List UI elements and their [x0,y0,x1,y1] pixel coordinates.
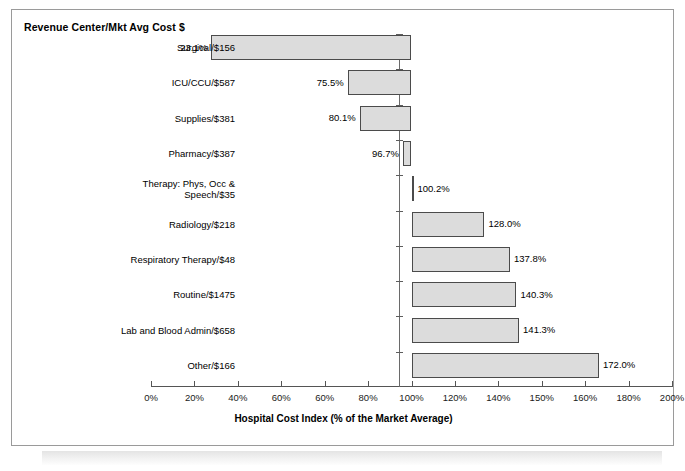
category-axis-tick [396,246,403,247]
category-label-line: Routine/$1475 [30,289,235,300]
category-label: Surgical/$156 [30,42,235,53]
bar [348,70,412,95]
category-label: Supplies/$381 [30,113,235,124]
bar-value-label: 128.0% [488,218,520,229]
chart-frame: Revenue Center/Mkt Avg Cost $ 0%20%40%60… [11,9,674,446]
x-axis-title: Hospital Cost Index (% of the Market Ave… [12,413,675,424]
category-axis-tick [396,352,403,353]
x-axis-tick [412,381,413,387]
bar-value-label: 140.3% [520,289,552,300]
bar-value-label: 172.0% [603,359,635,370]
x-axis-tick-label: 0% [144,392,158,403]
x-axis-tick-label: 150% [530,392,554,403]
x-axis-tick [629,381,630,387]
bar-value-label: 137.8% [514,253,546,264]
bar [412,212,485,237]
category-label: Other/$166 [30,360,235,371]
category-label-line: Surgical/$156 [30,42,235,53]
bar [412,176,414,201]
x-axis-tick-label: 100% [399,392,423,403]
category-label-line: Radiology/$218 [30,219,235,230]
x-axis-tick-label: 20% [185,392,204,403]
x-axis-tick-label: 60% [315,392,334,403]
x-axis-tick [455,381,456,387]
x-axis-tick [194,381,195,387]
category-label-line: Other/$166 [30,360,235,371]
category-label: Therapy: Phys, Occ &Speech/$35 [30,178,235,200]
x-axis-tick-label: 140% [486,392,510,403]
bar-value-label: 141.3% [523,324,555,335]
category-label-line: Speech/$35 [30,189,235,200]
category-label-line: Supplies/$381 [30,113,235,124]
bar [360,106,412,131]
category-label: ICU/CCU/$587 [30,77,235,88]
category-label-line: Lab and Blood Admin/$658 [30,325,235,336]
x-axis-tick-label: 200% [660,392,684,403]
category-axis-tick [396,175,403,176]
category-label: Routine/$1475 [30,289,235,300]
category-axis-tick [396,211,403,212]
x-axis-tick [672,381,673,387]
x-axis-tick [585,381,586,387]
x-axis-tick-label: 40% [228,392,247,403]
plot-area: 0%20%40%60%60%80%100%120%140%150%160%180… [12,10,675,447]
bar [412,282,517,307]
bar [412,353,600,378]
x-axis-tick [325,381,326,387]
x-axis-tick [498,381,499,387]
bar-value-label: 100.2% [418,183,450,194]
bar [412,318,520,343]
category-label: Pharmacy/$387 [30,148,235,159]
category-axis-tick [396,281,403,282]
category-label-line: Respiratory Therapy/$48 [30,254,235,265]
x-axis-tick [151,381,152,387]
page-background: Revenue Center/Mkt Avg Cost $ 0%20%40%60… [0,0,685,471]
x-axis-tick-label: 80% [359,392,378,403]
x-axis-tick [542,381,543,387]
bar [211,35,411,60]
x-axis-tick-label: 120% [443,392,467,403]
category-axis-tick [396,316,403,317]
category-label-line: Therapy: Phys, Occ & [30,178,235,189]
bar [412,247,510,272]
category-label: Radiology/$218 [30,219,235,230]
category-label: Respiratory Therapy/$48 [30,254,235,265]
x-axis-tick-label: 160% [573,392,597,403]
x-axis-tick-label: 180% [616,392,640,403]
x-axis-tick [281,381,282,387]
x-axis-tick [368,381,369,387]
page-shadow-band [42,451,662,465]
category-label-line: Pharmacy/$387 [30,148,235,159]
x-axis-tick [238,381,239,387]
bar [403,141,412,166]
category-label: Lab and Blood Admin/$658 [30,325,235,336]
x-axis-tick-label: 60% [272,392,291,403]
category-label-line: ICU/CCU/$587 [30,77,235,88]
